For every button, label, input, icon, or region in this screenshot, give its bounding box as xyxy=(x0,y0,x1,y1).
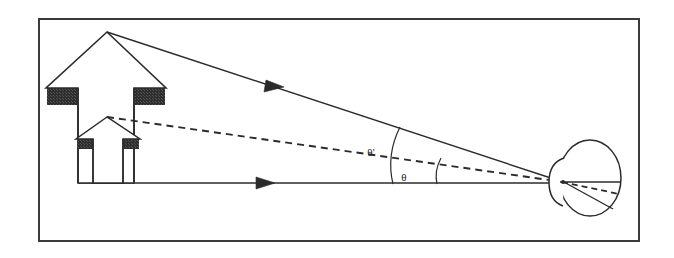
large-arrow-left-block xyxy=(47,88,78,105)
angle-theta-prime-label: θ' xyxy=(367,146,374,158)
angle-theta-label: θ xyxy=(401,171,406,183)
nodal-point xyxy=(561,180,565,184)
small-arrow-left-block xyxy=(77,139,93,149)
figure-root: θ' θ xyxy=(0,0,674,258)
large-arrow-right-block xyxy=(134,88,165,105)
ray-diagram-svg: θ' θ xyxy=(0,0,674,258)
eye-globe xyxy=(559,140,621,216)
small-arrow-right-block xyxy=(123,139,139,149)
